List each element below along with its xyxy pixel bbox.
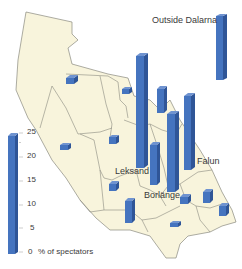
label-leksand: Leksand — [115, 167, 149, 176]
bar-leksand — [150, 142, 160, 185]
cube-sater — [180, 194, 191, 204]
label-outside-dalarna: Outside Dalarna — [152, 16, 217, 25]
bar-falun — [184, 93, 195, 170]
scale-tick-15: 15 — [27, 176, 36, 184]
scale-tick-25: 25 — [27, 128, 36, 136]
bar-gagnef — [125, 198, 135, 223]
bar-central — [136, 53, 148, 168]
cube-hedemora — [203, 189, 213, 203]
bar-outside-dalarna — [216, 14, 227, 80]
cube-orsa — [122, 87, 132, 94]
scale-tick-20: 20 — [27, 152, 36, 160]
dalarna-map — [0, 0, 242, 269]
scale-tick-10: 10 — [27, 200, 36, 208]
scale-tick-5: 5 — [30, 224, 34, 232]
cube-malung — [60, 143, 71, 150]
cube-vansbro — [109, 181, 119, 191]
bar-north-east — [157, 86, 167, 113]
scale-unit-label: % of spectators — [38, 248, 93, 256]
scale-tick-0: 0 — [28, 248, 32, 256]
scale-bar — [8, 133, 23, 254]
label-borlange: Borlänge — [144, 191, 180, 200]
cube-mora — [109, 135, 119, 144]
map-chart: Outside Dalarna Leksand Borlänge Falun 2… — [0, 0, 242, 269]
label-falun: Falun — [197, 157, 220, 166]
bar-borlange — [167, 111, 179, 192]
cube-avesta — [219, 203, 229, 216]
